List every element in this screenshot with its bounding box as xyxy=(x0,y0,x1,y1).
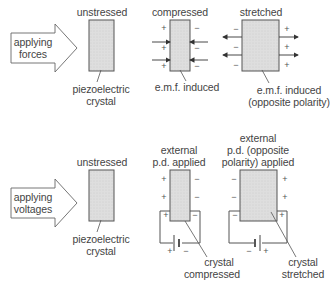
opposite-text-2: p.d. (opposite xyxy=(218,144,298,156)
stretched-caption-2: (opposite polarity) xyxy=(244,96,334,108)
minus-sign: − xyxy=(193,193,201,202)
unstressed-crystal-top xyxy=(89,20,114,71)
crystal-text-1: piezoelectric xyxy=(66,233,136,245)
stretched-crystal xyxy=(242,20,279,71)
stretched-label: stretched xyxy=(230,6,292,18)
plus-sign: + xyxy=(283,25,291,34)
minus-sign: − xyxy=(191,211,199,220)
plus-sign: + xyxy=(160,175,168,184)
minus-sign: − xyxy=(232,25,240,34)
stretched-caption: e.m.f. induced (opposite polarity) xyxy=(244,84,334,108)
minus-sign: − xyxy=(193,175,201,184)
plus-sign: + xyxy=(160,44,168,53)
minus-sign: − xyxy=(193,24,201,33)
plus-sign: + xyxy=(160,193,168,202)
crystal-text-1: piezoelectric xyxy=(66,83,136,95)
external-text-2: p.d. applied xyxy=(146,156,212,168)
compressed-crystal xyxy=(170,20,190,71)
arrow-text-2: voltages xyxy=(11,203,55,215)
battery-plus-sign: + xyxy=(262,247,270,256)
crystal-label-bottom: piezoelectric crystal xyxy=(66,233,136,257)
caption-text-1: crystal xyxy=(278,256,328,268)
minus-sign: − xyxy=(230,193,238,202)
minus-sign: − xyxy=(231,211,239,220)
crystal-text-2: crystal xyxy=(66,245,136,257)
external-pd-label: external p.d. applied xyxy=(146,144,212,168)
plus-sign: + xyxy=(160,62,168,71)
plus-sign: + xyxy=(281,175,289,184)
arrow-label-voltages: applying voltages xyxy=(11,191,55,215)
minus-sign: − xyxy=(193,44,201,53)
caption-text-2: stretched xyxy=(278,268,328,280)
crystal-stretched-caption: crystal stretched xyxy=(278,256,328,280)
crystal-label-top: piezoelectric crystal xyxy=(66,83,136,107)
minus-sign: − xyxy=(193,62,201,71)
battery-plus-sign: + xyxy=(166,247,174,256)
crystal-compressed-circuit xyxy=(170,170,190,221)
opposite-text-3: polarity) applied xyxy=(218,156,298,168)
unstressed-label-top: unstressed xyxy=(70,6,134,18)
minus-sign: − xyxy=(230,175,238,184)
opposite-text-1: external xyxy=(218,132,298,144)
caption-text-1: crystal xyxy=(182,256,242,268)
plus-sign: + xyxy=(162,211,170,220)
unstressed-label-bottom: unstressed xyxy=(70,156,134,168)
external-text-1: external xyxy=(146,144,212,156)
plus-sign: + xyxy=(283,43,291,52)
arrow-text-2: forces xyxy=(11,48,55,60)
crystal-text-2: crystal xyxy=(66,95,136,107)
compressed-label: compressed xyxy=(148,6,212,18)
compressed-caption: e.m.f. induced xyxy=(150,81,224,93)
plus-sign: + xyxy=(160,24,168,33)
external-pd-opposite-label: external p.d. (opposite polarity) applie… xyxy=(218,132,298,168)
plus-sign: + xyxy=(281,193,289,202)
plus-sign: + xyxy=(283,61,291,70)
stretched-caption-1: e.m.f. induced xyxy=(244,84,334,96)
plus-sign: + xyxy=(278,211,286,220)
battery-minus-sign: − xyxy=(245,247,253,256)
unstressed-crystal-bottom xyxy=(89,170,114,221)
arrow-label-forces: applying forces xyxy=(11,36,55,60)
minus-sign: − xyxy=(232,61,240,70)
battery-minus-sign: − xyxy=(182,247,190,256)
arrow-text-1: applying xyxy=(11,191,55,203)
minus-sign: − xyxy=(232,43,240,52)
crystal-compressed-caption: crystal compressed xyxy=(182,256,242,280)
arrow-text-1: applying xyxy=(11,36,55,48)
caption-text-2: compressed xyxy=(182,268,242,280)
